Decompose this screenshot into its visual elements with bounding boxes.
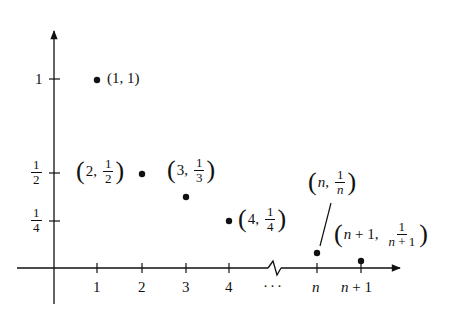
x-tick-label-3: 3: [182, 280, 190, 295]
point-label-1: (1, 1): [107, 71, 140, 86]
point-label-n: ( n, 1n ): [308, 168, 356, 196]
x-tick-label-1: 1: [93, 280, 101, 295]
x-tick-label-ellipsis: ···: [263, 279, 284, 294]
plot-canvas: [0, 0, 472, 313]
lparen: (: [334, 221, 343, 247]
x-axis: [17, 261, 400, 275]
point-label-4-x: 4,: [248, 212, 259, 227]
leader-line-n: [320, 203, 331, 246]
rparen: ): [419, 221, 428, 247]
point-label-4-den: 4: [265, 220, 276, 234]
x-tick-label-n-plus-1-var: n: [341, 279, 349, 295]
y-tick-quarter-den: 4: [31, 221, 42, 235]
point-label-n-plus-1: ( n + 1, 1n + 1 ): [334, 220, 428, 248]
point-label-n-comma: ,: [325, 175, 329, 190]
y-tick-label-1: 1: [35, 72, 43, 87]
point-label-n-x: n: [318, 175, 326, 190]
point-label-n1-x: n: [344, 227, 352, 242]
point-4: [226, 218, 232, 224]
y-tick-quarter-num: 1: [31, 206, 42, 221]
point-label-3: ( 3, 13 ): [167, 156, 215, 184]
point-label-4-num: 1: [265, 205, 276, 220]
y-tick-label-quarter: 14: [29, 206, 44, 234]
y-tick-half-num: 1: [31, 158, 42, 173]
point-label-n-den: n: [335, 183, 346, 197]
point-label-n1-den-rest: + 1: [395, 234, 415, 249]
rparen: ): [277, 206, 286, 232]
lparen: (: [167, 157, 176, 183]
point-n: [314, 250, 320, 256]
point-label-n1-rest: + 1,: [351, 227, 378, 242]
point-label-n1-den: n + 1: [386, 235, 417, 249]
point-label-3-x: 3,: [177, 163, 188, 178]
y-tick-half-den: 2: [31, 173, 42, 187]
point-3: [183, 194, 189, 200]
y-tick-label-half: 12: [29, 158, 44, 186]
point-label-2-den: 2: [103, 172, 114, 186]
point-label-3-den: 3: [194, 171, 205, 185]
lparen: (: [308, 169, 317, 195]
x-tick-label-2: 2: [138, 280, 146, 295]
point-label-3-num: 1: [194, 156, 205, 171]
rparen: ): [206, 157, 215, 183]
point-2: [139, 171, 145, 177]
x-tick-label-n-plus-1-rest: + 1: [349, 279, 372, 295]
point-label-2: ( 2, 12 ): [76, 157, 124, 185]
x-tick-label-4: 4: [225, 280, 233, 295]
point-1: [94, 77, 100, 83]
axis-break-zigzag: [268, 261, 281, 275]
point-label-2-num: 1: [103, 157, 114, 172]
point-label-n1-num: 1: [397, 220, 408, 235]
x-tick-label-n-plus-1: n + 1: [341, 280, 372, 295]
point-label-2-x: 2,: [86, 164, 97, 179]
lparen: (: [76, 158, 85, 184]
rparen: ): [347, 169, 356, 195]
point-label-4: ( 4, 14 ): [238, 205, 286, 233]
x-tick-label-n: n: [312, 280, 320, 295]
rparen: ): [115, 158, 124, 184]
lparen: (: [238, 206, 247, 232]
point-n-plus-1: [358, 258, 364, 264]
point-label-n-num: 1: [335, 168, 346, 183]
